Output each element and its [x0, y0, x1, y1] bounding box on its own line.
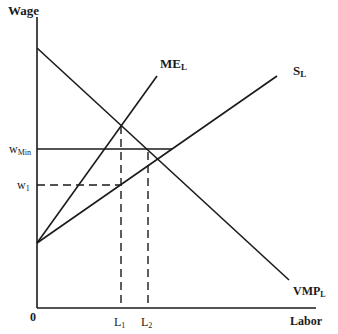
- w1-label: w1: [17, 178, 30, 193]
- wmin-label: wMin: [9, 142, 31, 157]
- vmp-curve: [37, 48, 289, 280]
- L1-label: L1: [114, 315, 125, 330]
- origin-label: 0: [30, 310, 36, 324]
- me-label: MEL: [160, 56, 187, 72]
- labor-market-diagram: Wage Labor 0 MEL SL VMPL wMin w1 L1 L2: [0, 0, 338, 334]
- x-axis-label: Labor: [290, 314, 323, 328]
- supply-curve: [37, 76, 277, 243]
- L2-label: L2: [141, 315, 152, 330]
- y-axis-label: Wage: [8, 3, 39, 18]
- me-curve: [37, 76, 157, 243]
- supply-label: SL: [293, 63, 306, 79]
- vmp-label: VMPL: [293, 284, 326, 299]
